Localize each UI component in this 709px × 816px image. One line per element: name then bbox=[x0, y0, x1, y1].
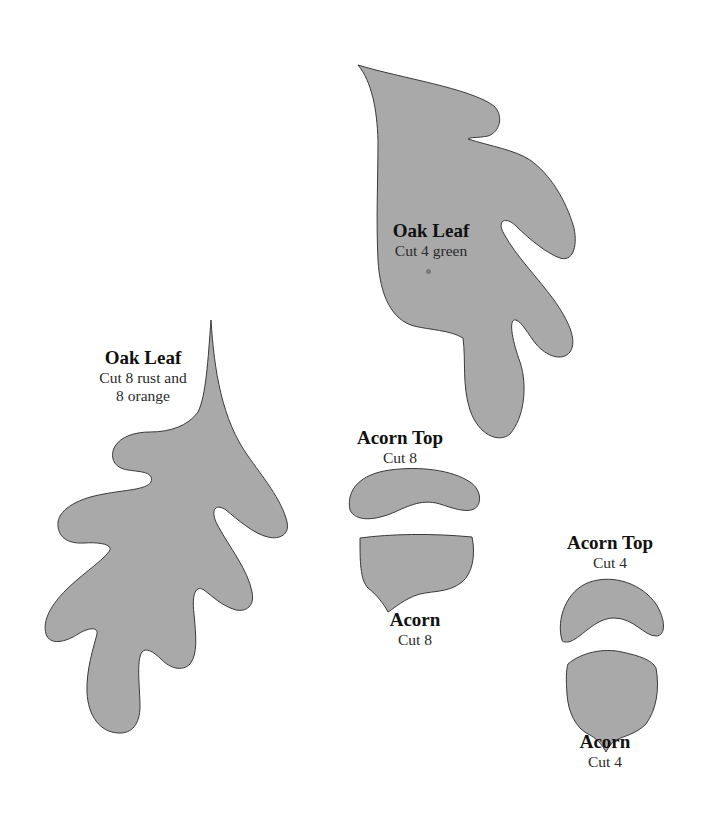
oak-leaf-small-instruction-line1: Cut 8 rust and bbox=[68, 369, 218, 387]
oak-leaf-large-instruction: Cut 4 green bbox=[376, 242, 486, 260]
acorn-top-large-instruction: Cut 8 bbox=[340, 449, 460, 467]
acorn-large-instruction: Cut 8 bbox=[360, 631, 470, 649]
acorn-top-small-label: Acorn Top Cut 4 bbox=[550, 532, 670, 572]
oak-leaf-large-title: Oak Leaf bbox=[376, 220, 486, 242]
acorn-top-small-title: Acorn Top bbox=[550, 532, 670, 554]
oak-leaf-small-title: Oak Leaf bbox=[68, 347, 218, 369]
acorn-top-large-title: Acorn Top bbox=[340, 427, 460, 449]
acorn-top-large-label: Acorn Top Cut 8 bbox=[340, 427, 460, 467]
acorn-small-label: Acorn Cut 4 bbox=[555, 731, 655, 771]
oak-leaf-large-label: Oak Leaf Cut 4 green bbox=[376, 220, 486, 260]
acorn-small-instruction: Cut 4 bbox=[555, 753, 655, 771]
oak-leaf-small-label: Oak Leaf Cut 8 rust and 8 orange bbox=[68, 347, 218, 404]
acorn-top-large-shape bbox=[349, 469, 479, 519]
acorn-top-small-shape bbox=[560, 579, 663, 642]
acorn-small-title: Acorn bbox=[555, 731, 655, 753]
oak-leaf-small-instruction-line2: 8 orange bbox=[68, 387, 218, 405]
pattern-shapes bbox=[0, 0, 709, 816]
acorn-large-title: Acorn bbox=[360, 609, 470, 631]
acorn-top-small-instruction: Cut 4 bbox=[550, 554, 670, 572]
acorn-large-shape bbox=[360, 534, 474, 612]
center-marker-dot bbox=[426, 269, 431, 274]
acorn-large-label: Acorn Cut 8 bbox=[360, 609, 470, 649]
